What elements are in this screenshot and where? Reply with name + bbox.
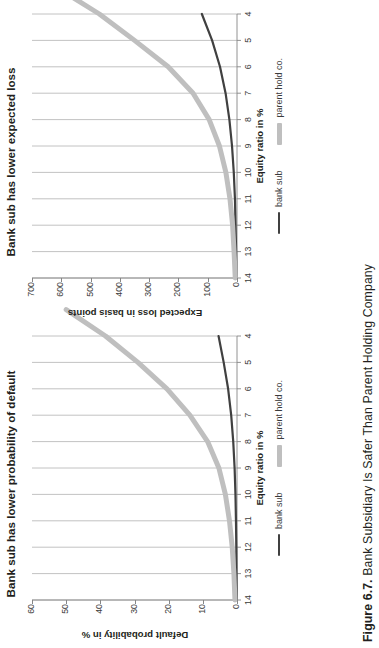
legend-swatch-parent-hold-co-icon [277, 123, 282, 145]
legend-item-bank-sub-left: bank sub [274, 493, 284, 557]
y-tick-label: 20 [163, 604, 173, 626]
y-tick-label: 500 [85, 282, 95, 304]
plot-svg-right [32, 14, 237, 278]
x-tick-label: 11 [243, 513, 253, 529]
x-tick-label: 14 [243, 270, 253, 286]
y-tick-label: 30 [129, 604, 139, 626]
x-tick-label: 5 [243, 354, 253, 370]
legend-item-parent-hold-co-right: parent hold co. [274, 58, 284, 145]
y-tick-mark [237, 600, 238, 604]
chart-panel-expected-loss: Bank sub has lower expected loss Expecte… [2, 6, 332, 318]
y-tick-mark [203, 600, 204, 604]
legend-swatch-bank-sub-icon [278, 534, 280, 556]
x-tick-label: 9 [243, 138, 253, 154]
plot-area-left [32, 336, 237, 600]
y-tick-mark [32, 278, 33, 282]
x-tick-label: 14 [243, 592, 253, 608]
y-axis-label-left-text: Default probability in % [81, 630, 188, 641]
x-tick-label: 10 [243, 164, 253, 180]
plot-area-right [32, 14, 237, 278]
y-tick-label: 0 [231, 282, 241, 304]
plot-inner-left [32, 336, 237, 600]
y-tick-mark [66, 600, 67, 604]
y-axis-label-right-text: Expected loss in basis points [67, 308, 201, 319]
legend-swatch-parent-hold-co-icon [277, 445, 282, 467]
y-tick-label: 600 [55, 282, 65, 304]
x-tick-label: 7 [243, 407, 253, 423]
legend-right: bank sub parent hold co. [274, 14, 284, 278]
plot-inner-right [32, 14, 237, 278]
x-tick-label: 6 [243, 381, 253, 397]
y-tick-mark [32, 600, 33, 604]
y-tick-label: 40 [94, 604, 104, 626]
x-tick-label: 13 [243, 244, 253, 260]
legend-left: bank sub parent hold co. [274, 336, 284, 600]
y-tick-mark [120, 278, 121, 282]
legend-item-parent-hold-co-left: parent hold co. [274, 380, 284, 467]
plot-svg-left [32, 336, 237, 600]
y-tick-mark [208, 278, 209, 282]
figure-caption-text: Bank Subsidiary Is Safer Than Parent Hol… [361, 264, 375, 576]
figure-caption: Figure 6.7. Bank Subsidiary Is Safer Tha… [361, 42, 375, 642]
chart-title-left: Bank sub has lower probability of defaul… [4, 328, 17, 640]
chart-title-right: Bank sub has lower expected loss [4, 6, 17, 318]
y-tick-label: 300 [143, 282, 153, 304]
x-tick-label: 4 [243, 6, 253, 22]
x-tick-label: 8 [243, 434, 253, 450]
y-tick-label: 50 [60, 604, 70, 626]
y-tick-mark [169, 600, 170, 604]
figure-area: Bank sub has lower probability of defaul… [0, 0, 379, 648]
series-line-parent-hold-co- [66, 310, 235, 600]
x-tick-label: 10 [243, 486, 253, 502]
y-tick-mark [61, 278, 62, 282]
legend-label-bank-sub: bank sub [274, 171, 284, 208]
series-line-parent-hold-co- [57, 0, 235, 278]
x-tick-label: 9 [243, 460, 253, 476]
legend-label-parent-hold-co: parent hold co. [274, 58, 284, 118]
x-tick-label: 11 [243, 191, 253, 207]
y-tick-mark [135, 600, 136, 604]
x-tick-label: 12 [243, 539, 253, 555]
legend-label-parent-hold-co: parent hold co. [274, 380, 284, 440]
rotated-canvas: Bank sub has lower probability of defaul… [0, 0, 379, 648]
y-tick-mark [237, 278, 238, 282]
x-axis-label-right: Equity ratio in % [254, 14, 265, 278]
x-tick-label: 7 [243, 85, 253, 101]
legend-swatch-bank-sub-icon [278, 212, 280, 234]
y-axis-label-right: Expected loss in basis points [32, 306, 237, 320]
x-tick-label: 6 [243, 59, 253, 75]
y-tick-label: 0 [231, 604, 241, 626]
x-tick-label: 8 [243, 112, 253, 128]
figure-caption-number: Figure 6.7. [361, 579, 375, 642]
x-tick-label: 13 [243, 566, 253, 582]
y-tick-label: 100 [202, 282, 212, 304]
x-tick-label: 5 [243, 32, 253, 48]
y-tick-label: 400 [114, 282, 124, 304]
y-tick-mark [149, 278, 150, 282]
y-tick-mark [91, 278, 92, 282]
y-tick-mark [178, 278, 179, 282]
x-tick-label: 12 [243, 217, 253, 233]
y-tick-label: 10 [197, 604, 207, 626]
legend-item-bank-sub-right: bank sub [274, 171, 284, 235]
figure-page: Bank sub has lower probability of defaul… [0, 0, 379, 648]
y-tick-label: 200 [172, 282, 182, 304]
y-axis-label-left: Default probability in % [32, 628, 237, 642]
y-tick-label: 60 [26, 604, 36, 626]
x-tick-label: 4 [243, 328, 253, 344]
y-tick-label: 700 [26, 282, 36, 304]
legend-label-bank-sub: bank sub [274, 493, 284, 530]
chart-panel-default-probability: Bank sub has lower probability of defaul… [2, 328, 332, 640]
x-axis-label-left: Equity ratio in % [254, 336, 265, 600]
y-tick-mark [100, 600, 101, 604]
